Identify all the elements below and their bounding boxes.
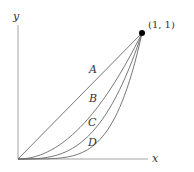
y-axis-label: y <box>12 10 20 23</box>
point-marker <box>139 30 145 36</box>
point-label: (1, 1) <box>148 19 175 30</box>
curve-label-b: B <box>88 92 97 105</box>
curve-label-c: C <box>88 116 97 129</box>
curve-a <box>18 33 142 159</box>
curve-label-d: D <box>87 136 97 149</box>
x-axis-label: x <box>152 152 159 165</box>
curves-diagram: x y A B C D (1, 1) <box>0 0 194 172</box>
curve-label-a: A <box>88 63 97 76</box>
